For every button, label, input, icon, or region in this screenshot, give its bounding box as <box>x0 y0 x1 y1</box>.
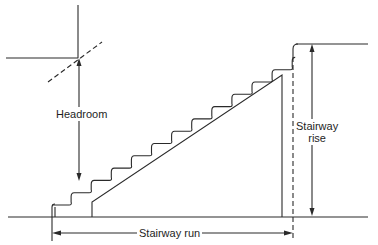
headroom-nosing-line <box>48 42 102 82</box>
stairway-rise-label-line1: Stairway <box>296 120 338 132</box>
upper-floor-nosing <box>293 44 298 57</box>
headroom-label: Headroom <box>55 107 108 121</box>
stairway-rise-label: Stairway rise <box>295 119 339 145</box>
arrowhead-down-icon <box>77 173 82 181</box>
bottom-nosing-post <box>52 204 55 217</box>
stairway-rise-label-line2: rise <box>296 132 338 144</box>
arrowhead-right-icon <box>284 231 293 236</box>
arrowhead-up-icon <box>77 58 82 66</box>
arrowhead-down-icon <box>310 208 315 216</box>
stair-profile <box>52 57 295 205</box>
arrowhead-left-icon <box>52 231 61 236</box>
stairway-run-label: Stairway run <box>137 227 202 239</box>
stair-stringer <box>92 75 282 217</box>
arrowhead-up-icon <box>310 44 315 52</box>
